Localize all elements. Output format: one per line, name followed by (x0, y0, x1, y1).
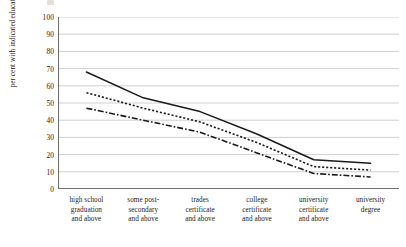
y-tick-label-40: 40 (28, 116, 54, 125)
x-category-label-2: tradescertificateand above (172, 196, 229, 225)
y-tick-label-50: 50 (28, 99, 54, 108)
x-category-label-3-line-0: college (229, 196, 286, 206)
y-tick-label-70: 70 (28, 64, 54, 73)
y-axis-title-line-1: per cent with indicated (8, 20, 19, 88)
x-axis-category-labels: high schoolgraduationand abovesome post-… (58, 196, 399, 244)
plot-area (58, 17, 399, 189)
x-category-label-1-line-0: some post- (115, 196, 172, 206)
x-category-label-5: universitydegree (342, 196, 399, 215)
x-category-label-1-line-1: secondary (115, 206, 172, 216)
y-tick-label-0: 0 (28, 185, 54, 194)
x-category-label-1-line-2: and above (115, 215, 172, 225)
line-chart: per cent with indicated education level … (0, 0, 406, 247)
x-category-label-4-line-2: and above (285, 215, 342, 225)
x-category-label-0-line-1: graduation (58, 206, 115, 216)
x-category-label-0-line-2: and above (58, 215, 115, 225)
x-category-label-0-line-0: high school (58, 196, 115, 206)
series-layer (58, 17, 399, 189)
x-category-label-3-line-1: certificate (229, 206, 286, 216)
y-tick-label-60: 60 (28, 81, 54, 90)
x-category-label-3: collegecertificateand above (229, 196, 286, 225)
y-axis-title-line-2: education level or higher (8, 0, 19, 19)
x-category-label-4-line-1: certificate (285, 206, 342, 216)
y-tick-label-100: 100 (28, 13, 54, 22)
x-category-label-4: universitycertificateand above (285, 196, 342, 225)
x-category-label-5-line-0: university (342, 196, 399, 206)
x-category-label-4-line-0: university (285, 196, 342, 206)
x-category-label-1: some post-secondaryand above (115, 196, 172, 225)
scan-artifact (47, 0, 54, 5)
x-category-label-2-line-2: and above (172, 215, 229, 225)
y-tick-label-20: 20 (28, 150, 54, 159)
x-category-label-3-line-2: and above (229, 215, 286, 225)
y-tick-label-90: 90 (28, 30, 54, 39)
y-tick-label-10: 10 (28, 167, 54, 176)
y-tick-label-30: 30 (28, 133, 54, 142)
x-category-label-0: high schoolgraduationand above (58, 196, 115, 225)
x-category-label-2-line-1: certificate (172, 206, 229, 216)
x-category-label-5-line-1: degree (342, 206, 399, 216)
y-tick-label-80: 80 (28, 47, 54, 56)
x-category-label-2-line-0: trades (172, 196, 229, 206)
y-axis-tick-labels: 0102030405060708090100 (26, 17, 54, 189)
